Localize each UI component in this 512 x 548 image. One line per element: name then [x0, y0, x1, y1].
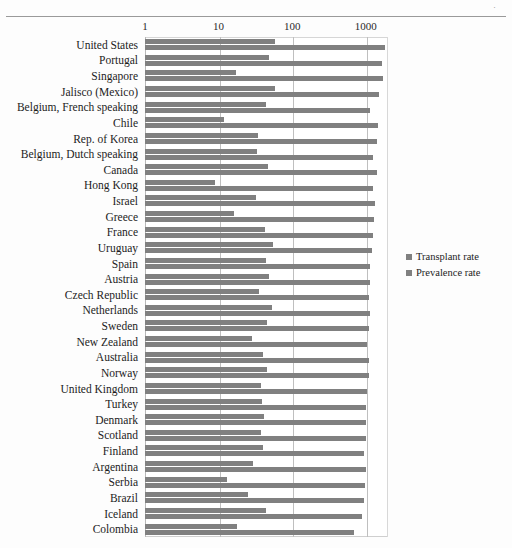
chart-row: New Zealand: [0, 334, 512, 350]
bar-transplant-rate: [145, 508, 266, 513]
bar-prevalence-rate: [145, 405, 366, 410]
bar-transplant-rate: [145, 477, 227, 482]
bar-transplant-rate: [145, 39, 275, 44]
category-label-united-kingdom: United Kingdom: [60, 383, 138, 395]
bar-transplant-rate: [145, 414, 264, 419]
bar-transplant-rate: [145, 305, 272, 310]
chart-row: Rep. of Korea: [0, 131, 512, 147]
bar-transplant-rate: [145, 492, 248, 497]
bar-prevalence-rate: [145, 436, 366, 441]
bar-chart: 1101001000 United StatesPortugalSingapor…: [0, 20, 512, 544]
x-axis-tick-labels: 1101001000: [0, 20, 512, 36]
chart-row: Chile: [0, 115, 512, 131]
chart-row: Brazil: [0, 490, 512, 506]
chart-row: Argentina: [0, 459, 512, 475]
bar-prevalence-rate: [145, 61, 382, 66]
category-label-colombia: Colombia: [93, 523, 138, 535]
bar-prevalence-rate: [145, 233, 373, 238]
category-label-belgium-dutch-speaking: Belgium, Dutch speaking: [21, 148, 138, 160]
bar-transplant-rate: [145, 461, 253, 466]
row-bars: [145, 115, 388, 131]
chart-row: Belgium, Dutch speaking: [0, 146, 512, 162]
chart-row: Singapore: [0, 68, 512, 84]
bar-transplant-rate: [145, 258, 266, 263]
bar-prevalence-rate: [145, 358, 369, 363]
row-bars: [145, 271, 388, 287]
bar-prevalence-rate: [145, 280, 370, 285]
bar-prevalence-rate: [145, 155, 373, 160]
row-bars: [145, 428, 388, 444]
legend-label: Prevalence rate: [416, 267, 480, 278]
category-label-serbia: Serbia: [109, 476, 138, 488]
chart-row: Hong Kong: [0, 178, 512, 194]
category-label-scotland: Scotland: [98, 429, 138, 441]
bar-transplant-rate: [145, 227, 265, 232]
row-bars: [145, 240, 388, 256]
row-bars: [145, 521, 388, 537]
bar-prevalence-rate: [145, 201, 375, 206]
category-label-finland: Finland: [103, 445, 138, 457]
bar-prevalence-rate: [145, 311, 370, 316]
legend-label: Transplant rate: [416, 251, 479, 262]
x-axis-tick-1: 1: [142, 20, 148, 32]
bar-transplant-rate: [145, 211, 234, 216]
chart-page: · 1101001000 United StatesPortugalSingap…: [0, 0, 512, 548]
row-bars: [145, 162, 388, 178]
chart-row: United States: [0, 37, 512, 53]
category-label-france: France: [107, 226, 138, 238]
row-bars: [145, 193, 388, 209]
row-bars: [145, 475, 388, 491]
bar-transplant-rate: [145, 133, 258, 138]
x-axis-tick-10: 10: [213, 20, 224, 32]
chart-row: Iceland: [0, 506, 512, 522]
chart-row: United Kingdom: [0, 381, 512, 397]
row-bars: [145, 100, 388, 116]
chart-row: Colombia: [0, 521, 512, 537]
chart-row: Sweden: [0, 318, 512, 334]
row-bars: [145, 443, 388, 459]
row-bars: [145, 287, 388, 303]
bar-prevalence-rate: [145, 530, 354, 535]
category-label-netherlands: Netherlands: [82, 304, 138, 316]
legend-item-prevalence-rate[interactable]: Prevalence rate: [406, 267, 510, 278]
bar-prevalence-rate: [145, 467, 366, 472]
bar-transplant-rate: [145, 164, 268, 169]
bar-prevalence-rate: [145, 451, 364, 456]
bar-transplant-rate: [145, 149, 257, 154]
bar-prevalence-rate: [145, 45, 385, 50]
row-bars: [145, 146, 388, 162]
bar-transplant-rate: [145, 289, 259, 294]
category-label-hong-kong: Hong Kong: [84, 179, 138, 191]
bar-prevalence-rate: [145, 108, 370, 113]
row-bars: [145, 350, 388, 366]
category-label-singapore: Singapore: [91, 70, 138, 82]
category-label-united-states: United States: [76, 39, 138, 51]
bar-prevalence-rate: [145, 76, 383, 81]
bar-transplant-rate: [145, 70, 236, 75]
chart-row: Finland: [0, 443, 512, 459]
chart-row: Australia: [0, 350, 512, 366]
category-label-sweden: Sweden: [102, 320, 138, 332]
row-bars: [145, 365, 388, 381]
row-bars: [145, 318, 388, 334]
legend-item-transplant-rate[interactable]: Transplant rate: [406, 251, 510, 262]
category-label-argentina: Argentina: [92, 461, 138, 473]
chart-row: Turkey: [0, 396, 512, 412]
category-label-chile: Chile: [113, 117, 138, 129]
chart-row: Scotland: [0, 428, 512, 444]
bar-transplant-rate: [145, 242, 273, 247]
row-bars: [145, 506, 388, 522]
category-label-australia: Australia: [96, 351, 138, 363]
chart-row: Denmark: [0, 412, 512, 428]
category-label-iceland: Iceland: [104, 508, 138, 520]
chart-row: Canada: [0, 162, 512, 178]
category-label-portugal: Portugal: [99, 54, 138, 66]
chart-legend: Transplant ratePrevalence rate: [406, 251, 510, 283]
chart-row: Czech Republic: [0, 287, 512, 303]
row-bars: [145, 256, 388, 272]
row-bars: [145, 68, 388, 84]
bar-prevalence-rate: [145, 186, 373, 191]
category-label-new-zealand: New Zealand: [76, 336, 138, 348]
category-label-norway: Norway: [101, 367, 138, 379]
category-label-canada: Canada: [104, 164, 138, 176]
